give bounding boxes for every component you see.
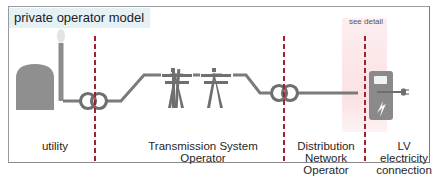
- label-dno-line1: Distribution: [290, 140, 362, 152]
- transmission-tower-icon: [162, 68, 192, 108]
- label-lv-line1: LV: [374, 140, 434, 152]
- label-tso-line2: Operator: [128, 152, 278, 164]
- label-lv-line3: connection: [374, 164, 434, 176]
- label-dno: Distribution Network Operator: [290, 140, 362, 176]
- label-tso: Transmission System Operator: [128, 140, 278, 164]
- label-tso-line1: Transmission System: [128, 140, 278, 152]
- label-dno-line2: Network: [290, 152, 362, 164]
- label-utility-line: utility: [20, 140, 90, 152]
- label-utility: utility: [20, 140, 90, 152]
- transmission-tower-icon: [201, 68, 231, 108]
- charging-station-icon: [369, 71, 409, 120]
- label-lv: LV electricity connection: [374, 140, 434, 176]
- label-lv-line2: electricity: [374, 152, 434, 164]
- transformer-icon: [81, 94, 107, 109]
- label-dno-line3: Operator: [290, 164, 362, 176]
- power-plant-icon: [16, 29, 65, 110]
